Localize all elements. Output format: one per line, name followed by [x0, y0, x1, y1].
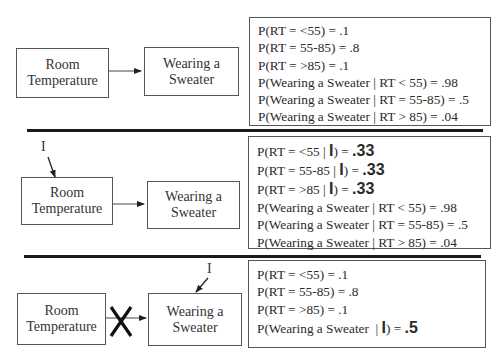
node-room-temperature-3: Room Temperature [17, 293, 106, 345]
prob-line: P(Wearing a Sweater | RT > 85) = .04 [257, 234, 490, 251]
prob-value: .5 [405, 319, 418, 336]
prob-line: P(RT = >85) = .1 [257, 301, 485, 318]
prob-expr: ) = [344, 163, 363, 178]
probability-table-1: P(RT = <55) = .1 P(RT = 55-85) = .8 P(RT… [249, 17, 491, 126]
prob-value: .8 [350, 40, 360, 55]
prob-expr: P(Wearing a Sweater | RT > 85) = [258, 109, 441, 124]
prob-line: P(RT = 55-85) = .8 [258, 39, 490, 56]
prob-expr: ) = [333, 144, 352, 159]
panel-divider-1 [27, 129, 483, 132]
prob-line: P(RT = <55) = .1 [258, 22, 490, 39]
prob-expr: P(Wearing a Sweater | RT = 55-85) = [257, 217, 458, 232]
prob-value: .04 [440, 235, 457, 250]
node-label-line: Temperature [27, 73, 98, 89]
prob-expr: P(Wearing a Sweater | RT = 55-85) = [258, 92, 459, 107]
prob-line: P(RT = <55 | I) = .33 [257, 142, 490, 161]
intervention-arrow-rt [48, 157, 55, 177]
node-wearing-sweater-3: Wearing a Sweater [148, 293, 242, 346]
intervention-label-2: I [207, 261, 212, 277]
prob-value: .1 [339, 58, 349, 73]
intervention-arrow-sweater [196, 278, 208, 292]
intervention-label-1: I [41, 139, 46, 155]
cut-x-icon [111, 307, 131, 336]
node-label-line: Room [50, 185, 84, 201]
probability-table-3: P(RT = <55) = .1 P(RT = 55-85) = .8 P(RT… [248, 260, 486, 348]
node-label-line: Sweater [172, 320, 217, 336]
prob-expr: P(RT = 55-85) = [257, 284, 349, 299]
node-wearing-sweater-1: Wearing a Sweater [144, 47, 239, 96]
prob-value: .98 [440, 200, 457, 215]
prob-expr: P(RT = <55) = [258, 23, 339, 38]
prob-expr: ) = [333, 182, 352, 197]
prob-value: .1 [338, 267, 348, 282]
prob-value: .1 [338, 302, 348, 317]
prob-expr: P(Wearing a Sweater | [257, 321, 382, 336]
prob-line: P(Wearing a Sweater | RT = 55-85) = .5 [257, 216, 490, 233]
prob-expr: P(RT = >85 | [257, 182, 329, 197]
prob-line: P(RT = 55-85 | I) = .33 [257, 161, 490, 180]
prob-value: .33 [362, 161, 384, 178]
prob-line: P(Wearing a Sweater | I) = .5 [257, 318, 485, 339]
prob-expr: P(Wearing a Sweater | RT < 55) = [257, 200, 440, 215]
prob-expr: P(Wearing a Sweater | RT > 85) = [257, 235, 440, 250]
probability-table-2: P(RT = <55 | I) = .33 P(RT = 55-85 | I) … [248, 136, 491, 249]
prob-expr: P(Wearing a Sweater | RT < 55) = [258, 75, 441, 90]
node-label-line: Sweater [171, 205, 216, 221]
prob-line: P(Wearing a Sweater | RT < 55) = .98 [258, 74, 490, 91]
prob-expr: P(RT = <55) = [257, 267, 338, 282]
prob-expr: P(RT = 55-85) = [258, 40, 350, 55]
node-room-temperature-1: Room Temperature [16, 48, 109, 98]
prob-value: .1 [339, 23, 349, 38]
prob-expr: P(RT = >85) = [258, 58, 339, 73]
prob-expr: P(RT = 55-85 | [257, 163, 339, 178]
prob-line: P(RT = >85 | I) = .33 [257, 180, 490, 199]
node-label-line: Wearing a [165, 189, 222, 205]
prob-value: .33 [352, 180, 374, 197]
prob-line: P(Wearing a Sweater | RT < 55) = .98 [257, 199, 490, 216]
prob-expr: ) = [386, 321, 405, 336]
prob-value: .5 [458, 217, 468, 232]
prob-expr: P(RT = >85) = [257, 302, 338, 317]
prob-value: .8 [349, 284, 359, 299]
panel-divider-2 [24, 255, 481, 258]
prob-line: P(Wearing a Sweater | RT = 55-85) = .5 [258, 91, 490, 108]
node-room-temperature-2: Room Temperature [21, 177, 113, 225]
prob-line: P(RT = >85) = .1 [258, 57, 490, 74]
node-wearing-sweater-2: Wearing a Sweater [147, 181, 240, 229]
prob-value: .33 [352, 142, 374, 159]
prob-line: P(RT = 55-85) = .8 [257, 283, 485, 300]
prob-line: P(RT = <55) = .1 [257, 266, 485, 283]
prob-value: .04 [441, 109, 458, 124]
prob-value: .5 [459, 92, 469, 107]
node-label-line: Sweater [169, 72, 214, 88]
node-label-line: Wearing a [167, 304, 224, 320]
node-label-line: Temperature [26, 319, 97, 335]
node-label-line: Room [45, 57, 79, 73]
node-label-line: Temperature [32, 201, 103, 217]
prob-value: .98 [441, 75, 458, 90]
node-label-line: Room [44, 303, 78, 319]
prob-line: P(Wearing a Sweater | RT > 85) = .04 [258, 108, 490, 125]
prob-expr: P(RT = <55 | [257, 144, 329, 159]
node-label-line: Wearing a [163, 56, 220, 72]
